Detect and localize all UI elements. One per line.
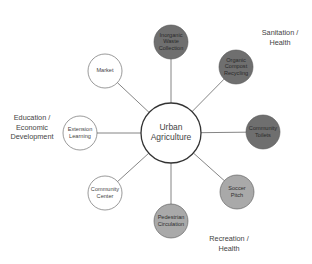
group-label-education-economic-development: Education /EconomicDevelopment [11, 113, 54, 141]
node-label: Pedestrian [158, 214, 185, 220]
node-label: Pitch [231, 192, 243, 198]
node-label: Extension [68, 126, 93, 132]
spoke-organic-compost-recycling [192, 79, 224, 112]
node-label: Inorganic [159, 32, 182, 38]
center-node: UrbanAgriculture [141, 103, 201, 163]
spoke-market [117, 83, 149, 113]
node-label: Toilets [255, 132, 271, 138]
node-label: Center [97, 193, 114, 199]
node-label: Organic [226, 57, 246, 63]
node-label: Recycling [224, 70, 248, 76]
group-label-text: Health [218, 244, 239, 253]
node-organic-compost-recycling: OrganicCompostRecycling [219, 50, 253, 84]
node-community-center: CommunityCenter [88, 176, 122, 210]
node-label: Soccer [228, 185, 246, 191]
group-label-text: Economic [16, 123, 48, 132]
node-community-toilets: CommunityToilets [246, 115, 280, 149]
group-label-text: Sanitation / [262, 28, 299, 37]
node-inorganic-waste-collection: InorganicWasteCollection [154, 25, 188, 59]
node-label: Collection [159, 45, 184, 51]
node-label: Community [91, 186, 119, 192]
node-pedestrian-circulation: PedestrianCirculation [154, 204, 188, 238]
group-label-text: Health [269, 38, 290, 47]
node-label: Circulation [158, 221, 184, 227]
node-label: Compost [225, 63, 248, 69]
group-label-text: Recreation / [209, 234, 249, 243]
group-label-sanitation-health: Sanitation /Health [262, 28, 299, 47]
group-label-text: Education / [14, 113, 51, 122]
node-market: Market [88, 54, 122, 88]
node-label: Learning [69, 133, 91, 139]
center-label: Urban [159, 122, 182, 132]
node-soccer-pitch: SoccerPitch [220, 175, 254, 209]
group-label-recreation-health: Recreation /Health [209, 234, 249, 253]
node-label: Market [96, 67, 114, 73]
spoke-soccer-pitch [193, 153, 224, 181]
urban-agriculture-diagram: InorganicWasteCollectionOrganicCompostRe… [0, 0, 312, 264]
center-label: Agriculture [151, 132, 192, 142]
group-label-text: Development [11, 132, 54, 141]
node-label: Community [249, 125, 277, 131]
node-label: Waste [163, 38, 179, 44]
spoke-community-center [118, 153, 149, 181]
node-extension-learning: ExtensionLearning [63, 116, 97, 150]
